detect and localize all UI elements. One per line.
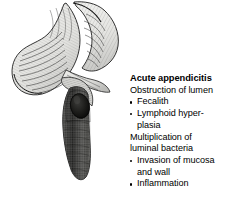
acute-appendicitis-figure: Acute appendicitis Obstruction of lumen …	[0, 0, 228, 199]
caption-bullet-fecalith: Fecalith	[130, 96, 226, 108]
caption-bullet-inflammation: Inflammation	[130, 178, 226, 190]
caption-bullet-lymphoid-hyperplasia: Lymphoid hyper-	[130, 108, 226, 120]
caption-line-multiplication: Multiplication of	[130, 132, 226, 144]
caption-block: Acute appendicitis Obstruction of lumen …	[130, 73, 226, 190]
caption-bullet-invasion-of-mucosa: Invasion of mucosa	[130, 155, 226, 167]
caption-title: Acute appendicitis	[130, 73, 226, 85]
caption-line-luminal-bacteria: luminal bacteria	[130, 143, 226, 155]
caption-line-obstruction: Obstruction of lumen	[130, 85, 226, 97]
caption-bullet-invasion-of-mucosa-cont: and wall	[130, 167, 226, 179]
caption-bullet-lymphoid-hyperplasia-cont: plasia	[130, 120, 226, 132]
